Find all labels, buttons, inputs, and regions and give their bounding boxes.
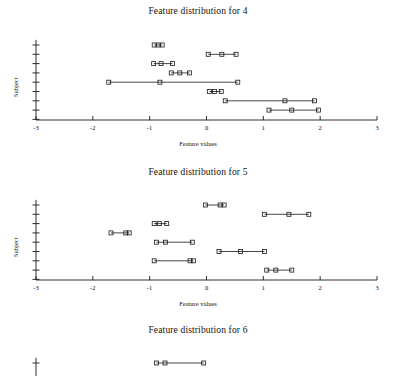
data-row [223, 99, 316, 103]
x-tick-label: 3 [375, 284, 378, 291]
data-row [152, 222, 169, 226]
panel-title: Feature distribution for 5 [0, 167, 396, 177]
data-row [107, 80, 240, 84]
data-row [154, 240, 194, 244]
data-row [109, 231, 131, 235]
x-tick-label: 2 [319, 124, 322, 131]
data-row [262, 212, 310, 216]
data-row [207, 90, 223, 94]
data-row [267, 108, 320, 112]
x-tick-label: -2 [90, 284, 95, 291]
x-tick-label: 1 [262, 284, 265, 291]
data-row [217, 250, 266, 254]
plot-area: -3-2-10123 [0, 194, 396, 298]
x-tick-label: 0 [205, 284, 208, 291]
x-tick-label: 2 [319, 284, 322, 291]
plot-area: -3-2-10123 [0, 34, 396, 138]
x-tick-label: -2 [90, 124, 95, 131]
data-row [152, 259, 195, 263]
data-row [169, 71, 191, 75]
chart-panel-6: Feature distribution for 6 [0, 320, 396, 376]
panel-title: Feature distribution for 4 [0, 6, 396, 16]
data-row [152, 62, 175, 66]
x-tick-label: 0 [205, 124, 208, 131]
data-row [206, 52, 238, 56]
figure-canvas: Feature distribution for 4 Subject -3-2-… [0, 0, 396, 376]
data-row [203, 203, 226, 207]
x-axis-label: Feature values [0, 140, 396, 147]
data-row [265, 268, 294, 272]
x-tick-label: 1 [262, 124, 265, 131]
x-tick-label: -1 [147, 284, 152, 291]
x-tick-label: 3 [375, 124, 378, 131]
x-tick-label: -3 [33, 124, 38, 131]
plot-area [0, 352, 396, 376]
x-tick-label: -3 [33, 284, 38, 291]
data-row [152, 43, 164, 47]
data-row [154, 361, 205, 365]
panel-title: Feature distribution for 6 [0, 325, 396, 335]
x-tick-label: -1 [147, 124, 152, 131]
x-axis-label: Feature values [0, 300, 396, 307]
chart-panel-4: Feature distribution for 4 Subject -3-2-… [0, 0, 396, 150]
chart-panel-5: Feature distribution for 5 Subject -3-2-… [0, 160, 396, 310]
